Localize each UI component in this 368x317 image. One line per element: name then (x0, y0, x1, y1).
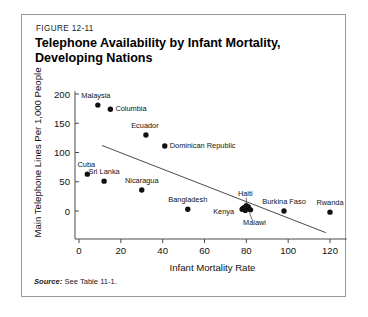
data-point-marker (327, 209, 332, 214)
data-point-label: Rwanda (316, 198, 344, 207)
x-tick-label: 40 (157, 245, 168, 256)
x-axis-title: Infant Mortality Rate (170, 262, 256, 273)
data-point-label: Sri Lanka (88, 167, 120, 176)
data-point-label: Ecuador (131, 121, 159, 130)
data-point-marker (248, 207, 253, 212)
data-point-marker (281, 208, 286, 213)
data-point-label: Bangladesh (168, 195, 207, 204)
source-value: See Table 11-1. (62, 277, 117, 286)
y-tick-label: 200 (54, 89, 70, 100)
data-point-label: Dominican Republic (170, 141, 236, 150)
data-point-marker (185, 207, 190, 212)
x-tick-label: 0 (76, 245, 81, 256)
data-point-marker (162, 143, 167, 148)
figure-frame: FIGURE 12-11 Telephone Availability by I… (21, 14, 346, 297)
data-point-label: Haiti (238, 189, 253, 198)
x-tick-label: 120 (322, 245, 338, 256)
scatter-plot: 050100150200020406080100120 MalaysiaColu… (22, 15, 347, 298)
data-point-label: Burkina Faso (262, 197, 306, 206)
source-label: Source: (34, 277, 62, 286)
data-point-label: Nicaragua (125, 176, 160, 185)
data-point-marker (95, 102, 100, 107)
data-point-marker (143, 132, 148, 137)
y-tick-label: 0 (65, 206, 70, 217)
data-point-marker (108, 107, 113, 112)
source-note: Source: See Table 11-1. (34, 277, 117, 286)
data-point-label: Malawi (243, 218, 266, 227)
data-point-label: Columbia (115, 104, 147, 113)
data-point-label: Kenya (213, 207, 235, 216)
data-point-label: Malaysia (81, 91, 111, 100)
data-point-marker (139, 187, 144, 192)
x-tick-label: 80 (241, 245, 252, 256)
x-tick-label: 60 (199, 245, 210, 256)
data-point-marker (244, 203, 249, 208)
y-tick-label: 100 (54, 147, 70, 158)
y-tick-label: 150 (54, 118, 70, 129)
trend-line-segment (102, 145, 326, 232)
plot-svg: 050100150200020406080100120 MalaysiaColu… (22, 15, 347, 298)
y-axis-title: Main Telephone Lines Per 1,000 People (32, 68, 43, 238)
x-tick-label: 100 (280, 245, 296, 256)
data-point-marker (101, 178, 106, 183)
data-point-marker (239, 207, 244, 212)
data-points-group: MalaysiaColumbiaEcuadorDominican Republi… (78, 91, 345, 227)
y-tick-label: 50 (59, 176, 70, 187)
x-tick-label: 20 (115, 245, 126, 256)
trend-line (102, 145, 326, 232)
